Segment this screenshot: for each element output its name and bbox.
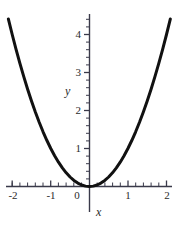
y-major-ticks bbox=[84, 35, 90, 149]
x-tick-label-zero: 0 bbox=[71, 190, 83, 201]
y-axis-label: y bbox=[65, 85, 70, 97]
parabola-plot-figure: 4 3 2 1 -2 -1 0 1 2 y x bbox=[0, 0, 178, 227]
x-axis-label: x bbox=[96, 206, 101, 218]
x-tick-label-pos2: 2 bbox=[161, 190, 173, 201]
plot-canvas bbox=[0, 0, 178, 227]
y-tick-label-1: 1 bbox=[68, 143, 81, 154]
y-tick-label-4: 4 bbox=[68, 29, 81, 40]
x-tick-label-neg2: -2 bbox=[6, 190, 20, 201]
y-tick-label-2: 2 bbox=[68, 105, 81, 116]
x-tick-label-pos1: 1 bbox=[122, 190, 134, 201]
x-tick-label-neg1: -1 bbox=[44, 190, 58, 201]
y-tick-label-3: 3 bbox=[68, 67, 81, 78]
